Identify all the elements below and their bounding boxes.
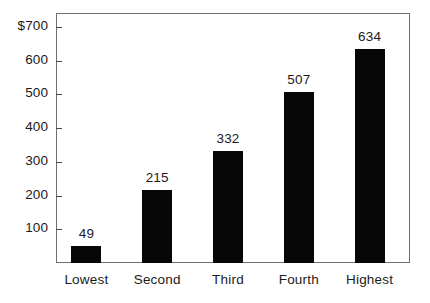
y-axis-label-100: 100 (0, 220, 48, 235)
category-label-highest: Highest (330, 272, 410, 287)
y-axis-label-400: 400 (0, 119, 48, 134)
y-axis-label-700: $700 (0, 18, 48, 33)
category-label-second: Second (117, 272, 197, 287)
bar-highest[interactable] (355, 49, 385, 263)
y-axis-label-300: 300 (0, 153, 48, 168)
y-axis-label-600: 600 (0, 52, 48, 67)
bar-third[interactable] (213, 151, 243, 263)
category-label-third: Third (188, 272, 268, 287)
y-axis-label-200: 200 (0, 187, 48, 202)
y-axis-label-500: 500 (0, 85, 48, 100)
category-label-fourth: Fourth (259, 272, 339, 287)
bar-second[interactable] (142, 190, 172, 263)
bar-fourth[interactable] (284, 92, 314, 263)
y-axis-tick-labels: 100200300400500600$700 (0, 0, 50, 303)
category-label-lowest: Lowest (46, 272, 126, 287)
bar-lowest[interactable] (71, 246, 101, 263)
bar-chart: 100200300400500600$700 49215332507634 Lo… (0, 0, 430, 303)
